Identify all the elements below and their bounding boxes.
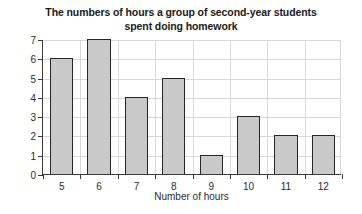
- y-axis-tick-label: 0: [30, 170, 36, 181]
- chart-figure: The numbers of hours a group of second-y…: [0, 0, 362, 214]
- y-axis-tick-label: 4: [30, 92, 36, 103]
- y-axis-tick-label: 2: [30, 131, 36, 142]
- bar: [312, 135, 335, 174]
- y-axis-tick-label: 3: [30, 112, 36, 123]
- x-axis-tick: [43, 174, 44, 179]
- y-axis-tick-label: 1: [30, 150, 36, 161]
- x-axis-tick: [193, 174, 194, 179]
- x-axis-tick: [267, 174, 268, 179]
- bar: [162, 78, 185, 174]
- x-axis-title: Number of hours: [42, 191, 341, 202]
- y-axis-tick-label: 7: [30, 35, 36, 46]
- x-axis-tick: [230, 174, 231, 179]
- x-axis-tick: [118, 174, 119, 179]
- bar: [274, 135, 297, 174]
- x-axis-tick: [342, 174, 343, 179]
- bar: [200, 155, 223, 174]
- bar: [125, 97, 148, 174]
- chart-title-line-1: The numbers of hours a group of second-y…: [20, 5, 342, 19]
- y-axis-tick-label: 5: [30, 73, 36, 84]
- bar: [237, 116, 260, 174]
- chart-title-line-2: spent doing homework: [20, 19, 342, 33]
- bar: [87, 39, 110, 174]
- bar: [50, 58, 73, 174]
- x-axis-tick: [80, 174, 81, 179]
- plot-area: 01234567 56789101112: [42, 40, 341, 175]
- bar-series: [43, 40, 341, 174]
- x-axis-tick: [155, 174, 156, 179]
- y-axis-tick-label: 6: [30, 54, 36, 65]
- chart-title: The numbers of hours a group of second-y…: [20, 5, 342, 33]
- x-axis-tick: [305, 174, 306, 179]
